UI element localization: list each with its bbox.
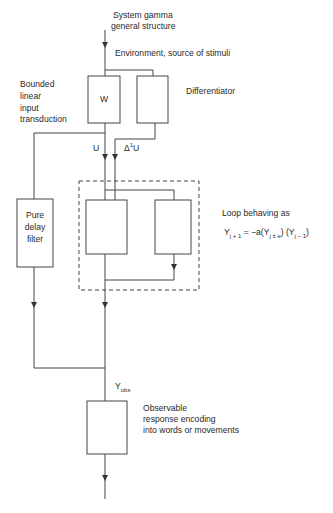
eq-end: )	[306, 227, 309, 237]
loop-output-arrow	[102, 302, 108, 308]
differentiator-label: Differentiator	[186, 86, 235, 98]
observable-response-line3: into words or movements	[143, 425, 239, 437]
observable-response-line1: Observable	[143, 403, 187, 415]
u-arrow	[102, 154, 108, 160]
pure-delay-label-line3: filter	[17, 234, 53, 246]
input-transduction-line2: linear	[20, 91, 41, 103]
loop-dashed-box	[79, 181, 199, 290]
feedback-arrow	[171, 264, 177, 270]
eq-mid: = −a(Y	[241, 227, 269, 237]
eq-sub-1: j + 1	[230, 233, 242, 239]
environment-label: Environment, source of stimuli	[115, 48, 230, 60]
delay-output-arrow	[31, 302, 37, 308]
input-transduction-line4: transduction	[20, 114, 67, 126]
y-obs-label: Yobs	[115, 381, 130, 393]
title-line2: general structure	[111, 21, 176, 33]
delta-u-signal-label: Δ1U	[124, 143, 139, 155]
input-arrow	[102, 42, 108, 48]
delay-output-line	[34, 267, 105, 368]
loop-feedback	[105, 254, 174, 280]
y-obs-sub: obs	[121, 387, 131, 393]
observable-response-line2: response encoding	[143, 414, 216, 426]
loop-left-block	[86, 200, 127, 254]
loop-equation: Yj + 1 = −a(Yj ± e) (Yj − 1)	[224, 227, 309, 239]
w-block-label: W	[88, 94, 120, 106]
input-transduction-line1: Bounded	[20, 79, 54, 91]
eq-sub-2: j ± e	[269, 233, 280, 239]
loop-label: Loop behaving as	[222, 208, 290, 220]
output-arrow	[102, 475, 108, 481]
input-transduction-line3: input	[20, 103, 39, 115]
observable-response-block	[87, 401, 127, 454]
delta-u-arrow	[112, 154, 118, 160]
branch-to-differentiator	[105, 70, 153, 76]
pure-delay-label-line1: Pure	[17, 210, 53, 222]
pure-delay-label-line2: delay	[17, 222, 53, 234]
title-line1: System gamma	[113, 10, 173, 22]
differentiator-block	[137, 76, 168, 123]
eq-mid-2: ) (Y	[281, 227, 295, 237]
delta-u-tail: U	[133, 143, 139, 153]
delta-u-line	[115, 123, 155, 200]
u-signal-label: U	[93, 143, 99, 155]
loop-right-block	[155, 200, 191, 254]
eq-sub-3: j − 1	[295, 233, 307, 239]
